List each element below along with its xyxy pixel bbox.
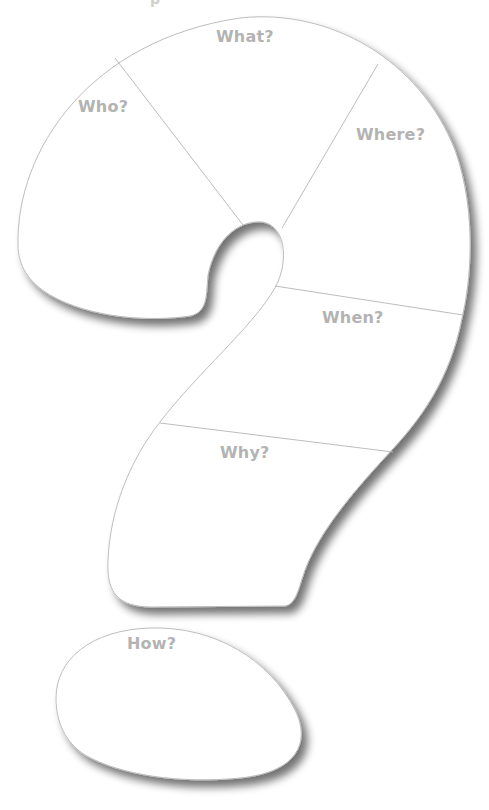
label-when: When? xyxy=(322,308,384,327)
label-why: Why? xyxy=(220,443,270,462)
question-mark-dot xyxy=(56,628,301,780)
question-mark-diagram xyxy=(0,0,489,810)
label-how: How? xyxy=(127,634,176,653)
label-who: Who? xyxy=(78,97,128,116)
label-what: What? xyxy=(216,27,274,46)
label-where: Where? xyxy=(356,125,425,144)
